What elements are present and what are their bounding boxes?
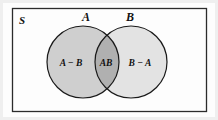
region-a-only-label: A − B <box>59 58 83 68</box>
set-b-label: B <box>125 10 134 24</box>
set-a-label: A <box>81 10 90 24</box>
region-intersection-label: AB <box>99 58 113 68</box>
venn-diagram-figure: S A B A − B AB B − A <box>0 0 218 120</box>
region-b-only-label: B − A <box>128 58 152 68</box>
venn-diagram-canvas: S A B A − B AB B − A <box>0 0 218 120</box>
universe-label: S <box>19 14 25 26</box>
